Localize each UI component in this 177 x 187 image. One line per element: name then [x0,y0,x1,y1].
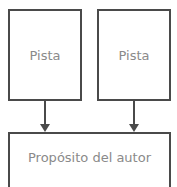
clue-box-1: Pista [8,9,82,101]
authors-purpose-box: Propósito del autor [8,132,171,187]
arrow-clue-1-to-purpose [40,101,50,132]
clue-label-1: Pista [29,48,60,63]
arrow-clue-2-to-purpose [129,101,139,132]
authors-purpose-label: Propósito del autor [28,150,151,165]
clue-box-2: Pista [97,9,171,101]
clue-label-2: Pista [118,48,149,63]
